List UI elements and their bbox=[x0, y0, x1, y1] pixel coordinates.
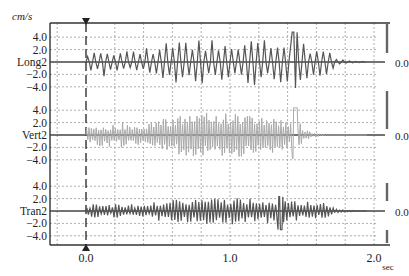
tran2-y-tick: −4.0 bbox=[26, 230, 47, 242]
long2-zero-label: 0.0 bbox=[395, 57, 409, 69]
seismogram-chart: cm/s 4.02.0Long2−2.0−4.04.02.0Vert2−2.0−… bbox=[0, 0, 409, 276]
tran2-y-tick: −2.0 bbox=[26, 217, 47, 229]
x-tick-0: 0.0 bbox=[79, 251, 94, 265]
tran2-y-tick: 4.0 bbox=[33, 180, 48, 192]
x-axis-labels: 0.0 1.0 2.0 sec bbox=[79, 251, 394, 272]
long2-y-tick: 2.0 bbox=[33, 44, 48, 56]
tran2-y-tick: 2.0 bbox=[33, 193, 48, 205]
vert2-y-tick: 2.0 bbox=[33, 117, 48, 129]
unit-label: cm/s bbox=[12, 10, 32, 22]
vert2-y-tick: Vert2 bbox=[22, 129, 47, 141]
x-tick-1: 1.0 bbox=[223, 251, 238, 265]
long2-y-tick: −2.0 bbox=[26, 68, 47, 80]
vert2-trace bbox=[86, 108, 367, 159]
vert2-y-tick: −2.0 bbox=[26, 141, 47, 153]
tran2-y-tick: Tran2 bbox=[20, 205, 47, 217]
long2-y-tick: −4.0 bbox=[26, 81, 47, 93]
vert2-zero-label: 0.0 bbox=[395, 130, 409, 142]
right-zero-labels: 0.0 0.0 0.0 bbox=[395, 57, 409, 218]
traces bbox=[50, 32, 385, 229]
marker-top-triangle-icon bbox=[82, 18, 90, 25]
tran2-zero-label: 0.0 bbox=[395, 206, 409, 218]
vert2-y-tick: 4.0 bbox=[33, 104, 48, 116]
long2-trace bbox=[86, 32, 366, 88]
vert2-y-tick: −4.0 bbox=[26, 154, 47, 166]
long2-y-tick: 4.0 bbox=[33, 31, 48, 43]
tran2-trace bbox=[86, 197, 367, 230]
x-tick-2: 2.0 bbox=[367, 251, 382, 265]
x-axis-unit: sec bbox=[382, 262, 394, 272]
y-axis-labels: 4.02.0Long2−2.0−4.04.02.0Vert2−2.0−4.04.… bbox=[17, 31, 47, 242]
long2-y-tick: Long2 bbox=[17, 56, 47, 69]
